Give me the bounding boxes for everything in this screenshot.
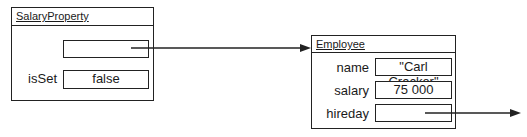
salary-property-object: SalaryProperty isSet false [11, 7, 154, 101]
employee-object: Employee name "Carl Cracker" salary 75 0… [311, 35, 456, 129]
hireday-label: hireday [314, 106, 369, 121]
name-label: name [314, 60, 369, 75]
name-value: "Carl Cracker" [375, 58, 452, 76]
salary-property-reference-field [63, 40, 149, 58]
salary-value: 75 000 [375, 81, 452, 99]
salary-label: salary [314, 83, 369, 98]
arrow-salaryproperty-to-employee [131, 44, 311, 52]
isset-label: isSet [14, 71, 57, 86]
salary-property-title-bar: SalaryProperty [12, 8, 153, 26]
salary-property-title: SalaryProperty [16, 10, 89, 22]
employee-title-bar: Employee [312, 36, 455, 53]
employee-title: Employee [316, 38, 365, 50]
hireday-reference-field [375, 104, 452, 122]
isset-value: false [63, 70, 149, 89]
